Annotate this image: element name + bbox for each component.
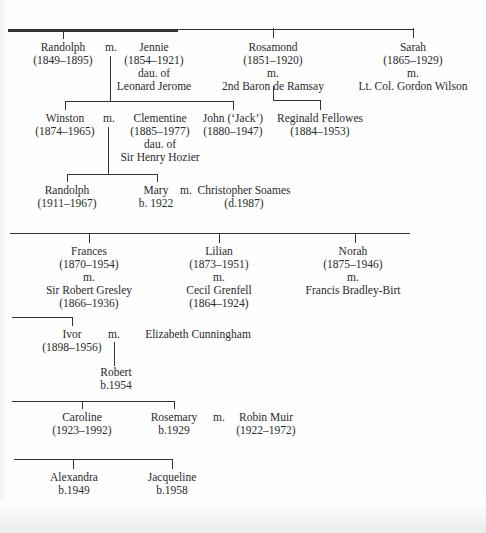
person-randolph2: Randolph (1911–1967) (38, 184, 97, 210)
person-mary: Mary b. 1922 (139, 184, 174, 210)
connector-ivor (72, 317, 73, 326)
marriage-marker: m. (46, 271, 132, 284)
person-frances: Frances (1870–1954) m. Sir Robert Gresle… (46, 245, 132, 310)
person-dates: (1923–1992) (52, 424, 111, 437)
spouse-name: Lt. Col. Gordon Wilson (359, 80, 468, 93)
person-name: Clementine (120, 112, 199, 125)
person-dates: (d.1987) (198, 197, 291, 210)
person-alexandra: Alexandra b.1949 (50, 471, 98, 497)
person-note: Leonard Jerome (117, 80, 191, 93)
person-elizabeth: Elizabeth Cunningham (145, 328, 251, 341)
person-dates: (1922–1972) (236, 424, 295, 437)
person-name: Ivor (42, 328, 101, 341)
connector-jacqueline (172, 459, 173, 469)
person-name: Caroline (52, 411, 111, 424)
person-note: Sir Henry Hozier (120, 151, 199, 164)
person-sarah: Sarah (1865–1929) m. Lt. Col. Gordon Wil… (359, 41, 468, 93)
connector-frances (89, 233, 90, 243)
person-name: Mary (139, 184, 174, 197)
page-bottom-shade (0, 500, 486, 533)
person-dates: (1884–1953) (277, 125, 363, 138)
person-dates: b.1929 (151, 424, 198, 437)
marriage-marker: m. (186, 271, 251, 284)
marriage-marker: m. (108, 328, 120, 341)
person-dates: b.1958 (148, 484, 197, 497)
descent-line (110, 56, 111, 102)
person-name: Randolph (38, 184, 97, 197)
connector-lilian (219, 233, 220, 243)
person-dates: b. 1922 (139, 197, 174, 210)
sibling-line (12, 317, 73, 318)
marriage-marker: m. (103, 112, 115, 125)
person-dates: b.1954 (100, 379, 132, 392)
person-name: Winston (35, 112, 94, 125)
connector-norah (355, 233, 356, 243)
connector-winston (65, 101, 66, 110)
person-john: John (‘Jack’) (1880–1947) (203, 112, 263, 138)
person-name: Jennie (117, 41, 191, 54)
marriage-marker: m. (105, 41, 117, 54)
person-dates: (1885–1977) (120, 125, 199, 138)
person-name: John (‘Jack’) (203, 112, 263, 125)
person-name: Rosemary (151, 411, 198, 424)
connector-reginald (320, 100, 321, 110)
generation-1-line-span (8, 29, 414, 30)
connector-sarah (413, 28, 414, 38)
connector-alexandra (73, 459, 74, 469)
person-caroline: Caroline (1923–1992) (52, 411, 111, 437)
person-name: Sarah (359, 41, 468, 54)
marriage-marker: m. (306, 271, 401, 284)
person-name: Jacqueline (148, 471, 197, 484)
sibling-line (273, 100, 321, 101)
person-name: Rosamond (222, 41, 324, 54)
sibling-line (12, 401, 175, 402)
family-tree: Randolph (1849–1895) m. Jennie (1854–192… (0, 0, 486, 533)
connector-mary (157, 174, 158, 182)
connector-caroline (82, 401, 83, 409)
person-name: Frances (46, 245, 132, 258)
descent-line (108, 127, 109, 174)
person-note: dau. of (117, 67, 191, 80)
person-winston: Winston (1874–1965) (35, 112, 94, 138)
person-rosemary: Rosemary b.1929 (151, 411, 198, 437)
spouse-name: Sir Robert Gresley (46, 284, 132, 297)
person-dates: (1874–1965) (35, 125, 94, 138)
person-robert: Robert b.1954 (100, 366, 132, 392)
person-christopher: Christopher Soames (d.1987) (198, 184, 291, 210)
person-robin: Robin Muir (1922–1972) (236, 411, 295, 437)
sibling-line (14, 459, 173, 460)
person-name: Randolph (33, 41, 92, 54)
spouse-dates: (1864–1924) (186, 297, 251, 310)
person-clementine: Clementine (1885–1977) dau. of Sir Henry… (120, 112, 199, 164)
person-name: Robin Muir (236, 411, 295, 424)
person-lilian: Lilian (1873–1951) m. Cecil Grenfell (18… (186, 245, 251, 310)
marriage-marker: m. (213, 411, 225, 424)
person-ivor: Ivor (1898–1956) (42, 328, 101, 354)
sibling-line (67, 174, 158, 175)
descent-line (114, 342, 115, 366)
person-dates: (1865–1929) (359, 54, 468, 67)
connector-john (233, 101, 234, 110)
person-jacqueline: Jacqueline b.1958 (148, 471, 197, 497)
person-name: Robert (100, 366, 132, 379)
marriage-marker: m. (180, 184, 192, 197)
spouse-name: Francis Bradley-Birt (306, 284, 401, 297)
person-reginald: Reginald Fellowes (1884–1953) (277, 112, 363, 138)
person-dates: (1851–1920) (222, 54, 324, 67)
marriage-marker: m. (359, 67, 468, 80)
person-dates: (1898–1956) (42, 341, 101, 354)
sibling-line (10, 233, 410, 234)
marriage-marker: m. (222, 67, 324, 80)
person-dates: (1849–1895) (33, 54, 92, 67)
connector-randolph2 (67, 174, 68, 182)
person-name: Lilian (186, 245, 251, 258)
person-randolph: Randolph (1849–1895) (33, 41, 92, 67)
person-note: dau. of (120, 138, 199, 151)
sibling-line (65, 101, 234, 102)
person-name: Christopher Soames (198, 184, 291, 197)
connector-rosamond (273, 28, 274, 38)
person-dates: (1870–1954) (46, 258, 132, 271)
person-dates: (1911–1967) (38, 197, 97, 210)
connector-randolph (63, 29, 64, 39)
person-dates: (1854–1921) (117, 54, 191, 67)
